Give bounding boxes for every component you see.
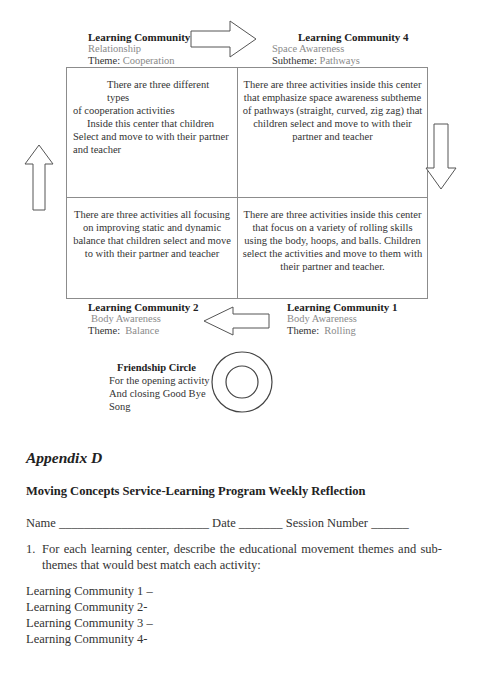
- name-label: Name: [26, 516, 56, 530]
- arrow-down-icon: [425, 123, 457, 191]
- lc1-title: Learning Community 1: [287, 301, 398, 313]
- appendix-heading: Appendix D: [26, 449, 102, 467]
- lc3-theme: Theme: Cooperation: [88, 55, 199, 67]
- question-text: For each learning center, describe the e…: [42, 541, 442, 573]
- question-1: 1. For each learning center, describe th…: [26, 541, 442, 573]
- lc3-description-cell: There are three different types of coope…: [67, 68, 237, 197]
- answer-list: Learning Community 1 – Learning Communit…: [26, 583, 153, 647]
- lc3-category: Relationship: [88, 43, 199, 55]
- lc2-category: Body Awareness: [88, 313, 199, 325]
- question-number: 1.: [26, 541, 42, 573]
- date-field[interactable]: _______: [239, 516, 283, 530]
- form-title: Moving Concepts Service-Learning Program…: [26, 484, 365, 499]
- lc1-header: Learning Community 1 Body Awareness Them…: [287, 301, 398, 337]
- arrow-right-icon: [190, 20, 258, 58]
- friendship-circle-icon: [210, 350, 274, 414]
- arrow-up-icon: [24, 144, 54, 212]
- friendship-circle-title: Friendship Circle: [109, 361, 210, 374]
- lc2-theme: Theme: Balance: [88, 325, 199, 337]
- lc4-theme: Subtheme: Pathways: [272, 55, 409, 67]
- session-number-field[interactable]: ______: [371, 516, 409, 530]
- lc4-header: Learning Community 4 Space Awareness Sub…: [272, 31, 409, 67]
- answer-lc4: Learning Community 4-: [26, 631, 153, 647]
- lc1-theme: Theme: Rolling: [287, 325, 398, 337]
- lc4-category: Space Awareness: [272, 43, 409, 55]
- lc1-description-cell: There are three activities inside this c…: [238, 198, 427, 298]
- answer-lc1: Learning Community 1 –: [26, 583, 153, 599]
- answer-lc2: Learning Community 2-: [26, 599, 153, 615]
- lc2-description-cell: There are three activities all focusing …: [67, 198, 237, 298]
- lc3-title: Learning Community 3: [88, 31, 199, 43]
- lc2-header: Learning Community 2 Body Awareness Them…: [88, 301, 199, 337]
- lc1-category: Body Awareness: [287, 313, 398, 325]
- lc2-title: Learning Community 2: [88, 301, 199, 313]
- lc4-description-cell: There are three activities inside this c…: [238, 68, 427, 197]
- form-fields-line: Name ________________________ Date _____…: [26, 516, 409, 531]
- lc3-header: Learning Community 3 Relationship Theme:…: [88, 31, 199, 67]
- lc4-title: Learning Community 4: [272, 31, 409, 43]
- answer-lc3: Learning Community 3 –: [26, 615, 153, 631]
- name-field[interactable]: ________________________: [59, 516, 209, 530]
- arrow-left-icon: [203, 306, 271, 336]
- session-number-label: Session Number: [286, 516, 368, 530]
- learning-centers-grid: There are three different types of coope…: [66, 67, 428, 299]
- friendship-circle-text: Friendship Circle For the opening activi…: [109, 361, 210, 413]
- date-label: Date: [212, 516, 236, 530]
